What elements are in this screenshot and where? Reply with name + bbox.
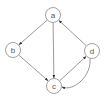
edges-layer <box>19 20 91 88</box>
node-label: a <box>51 11 56 20</box>
node-d: d <box>85 44 100 59</box>
nodes-layer: abcd <box>6 8 100 94</box>
edge-a-to-c <box>53 23 54 79</box>
edge-b-to-c <box>19 55 48 81</box>
node-label: c <box>52 82 56 91</box>
graph-svg: abcd <box>0 0 104 101</box>
edge-a-to-b <box>19 20 47 45</box>
edge-c-to-d <box>60 56 87 81</box>
node-label: d <box>90 47 94 56</box>
edge-d-to-c <box>62 59 90 88</box>
graph-diagram: abcd <box>0 0 104 101</box>
edge-d-to-a <box>59 20 87 46</box>
node-label: b <box>11 46 16 55</box>
node-c: c <box>47 79 62 94</box>
node-b: b <box>6 43 21 58</box>
node-a: a <box>46 8 61 23</box>
